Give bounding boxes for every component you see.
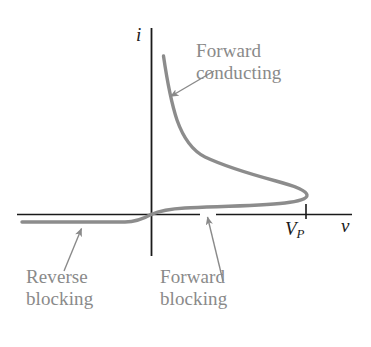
annotation-reverse-blocking: Reverse blocking bbox=[26, 266, 93, 310]
iv-characteristic-figure: i v VP Forward conducting Reverse blocki… bbox=[0, 0, 371, 347]
x-axis-label: v bbox=[341, 216, 349, 235]
reverse-blocking-curve bbox=[22, 215, 151, 223]
annotation-forward-conducting: Forward conducting bbox=[196, 40, 281, 84]
peak-voltage-symbol: V bbox=[285, 218, 297, 239]
peak-voltage-subscript: P bbox=[297, 226, 305, 241]
reverse-blocking-arrow bbox=[64, 229, 82, 272]
peak-voltage-label: VP bbox=[285, 219, 305, 243]
y-axis-label: i bbox=[136, 25, 141, 44]
annotation-forward-blocking: Forward blocking bbox=[160, 266, 227, 310]
